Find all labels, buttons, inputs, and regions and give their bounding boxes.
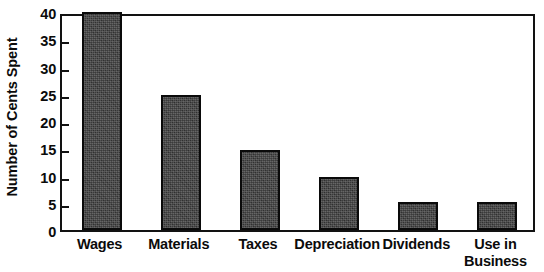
y-axis-tick-mark: [62, 97, 69, 99]
y-axis-tick-label: 20: [26, 116, 56, 131]
y-axis-tick-labels: 0510152025303540: [26, 0, 56, 246]
x-axis-tick-label: Dividends: [383, 236, 451, 253]
y-axis-title-label: Number of Cents Spent: [4, 37, 20, 196]
y-axis-tick-label: 30: [26, 61, 56, 76]
bar: [161, 95, 201, 230]
x-axis-tick-label: Materials: [148, 236, 209, 253]
x-axis-tick-labels: WagesMaterialsTaxesDepreciationDividends…: [60, 236, 535, 272]
x-axis-tick-label: Taxes: [238, 236, 277, 253]
y-axis-tick-mark: [62, 70, 69, 72]
y-axis-tick-label: 15: [26, 143, 56, 158]
y-axis-title: Number of Cents Spent: [0, 0, 24, 234]
y-axis-tick-mark: [62, 124, 69, 126]
y-axis-tick-mark: [62, 42, 69, 44]
bar: [398, 202, 438, 230]
bar: [240, 150, 280, 230]
y-axis-tick-label: 5: [26, 198, 56, 213]
y-axis-tick-mark: [62, 206, 69, 208]
bar: [319, 177, 359, 230]
x-axis-tick-label: Wages: [77, 236, 122, 253]
y-axis-tick-label: 40: [26, 7, 56, 22]
y-axis-tick-label: 35: [26, 34, 56, 49]
bar: [82, 12, 122, 230]
y-axis-tick-mark: [62, 151, 69, 153]
y-axis-tick-label: 25: [26, 89, 56, 104]
y-axis-tick-mark: [62, 179, 69, 181]
x-axis-tick-label: Use in Business: [464, 236, 527, 270]
bar-chart: Number of Cents Spent 0510152025303540 W…: [0, 0, 544, 272]
y-axis-tick-label: 0: [26, 225, 56, 240]
bar: [477, 202, 517, 230]
y-axis-tick-label: 10: [26, 170, 56, 185]
x-axis-tick-label: Depreciation: [294, 236, 379, 253]
plot-area: [60, 14, 535, 232]
